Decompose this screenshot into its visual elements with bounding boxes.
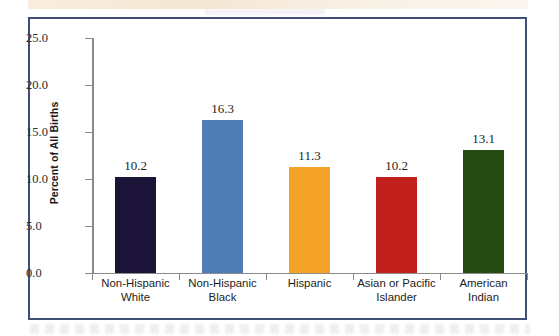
x-axis-category-label-line: American [432,277,536,291]
chart-frame: Percent of All Births 0.05.010.015.020.0… [28,17,527,320]
page-bleedthrough-text [30,324,530,334]
x-axis-category-label-line: Indian [432,291,536,305]
page-scan-smudge-secondary [205,9,325,15]
bar-value-label: 10.2 [385,158,408,174]
x-axis-category-label: AmericanIndian [432,277,536,304]
x-axis-category-labels: Non-HispanicWhiteNon-HispanicBlackHispan… [30,19,525,318]
bar-value-label: 13.1 [472,131,495,147]
x-axis-category-label-line: Black [171,291,275,305]
bar-chart-plot: Percent of All Births 0.05.010.015.020.0… [30,19,525,318]
bar-value-label: 16.3 [211,101,234,117]
page-scan-smudge-top [28,0,528,9]
bar-value-label: 10.2 [124,158,147,174]
bar-value-label: 11.3 [298,148,320,164]
